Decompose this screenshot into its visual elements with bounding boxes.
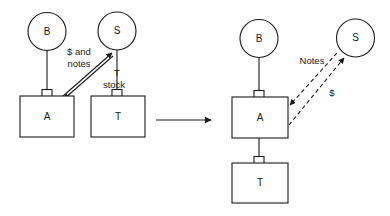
- node-after-b-label: B: [256, 33, 263, 44]
- node-before-s-label: S: [114, 25, 121, 36]
- edge-label-notes: Notes: [300, 55, 325, 66]
- edge-label-cash-and-notes-line1: $ and: [67, 46, 91, 57]
- connector-tab-after-a: [254, 91, 264, 98]
- edge-label-cash: $: [329, 87, 335, 98]
- node-before-t-label: T: [115, 111, 121, 122]
- edge-label-t-stock-line2: stock: [103, 79, 125, 90]
- diagram-svg: B S A T $ and notes T stock: [0, 0, 390, 216]
- panel-before: B S A T $ and notes T stock: [20, 12, 145, 137]
- node-after-a-label: A: [257, 112, 264, 123]
- connector-tab-before-t: [112, 90, 122, 97]
- edge-label-cash-and-notes-line2: notes: [67, 58, 90, 69]
- diagram-canvas: B S A T $ and notes T stock: [0, 0, 390, 216]
- edge-after-cash-a-to-s: [289, 58, 344, 125]
- node-before-a-label: A: [44, 111, 51, 122]
- edge-label-t-stock-line1: T: [114, 67, 120, 78]
- connector-tab-before-a: [42, 90, 52, 97]
- node-after-t-label: T: [257, 177, 263, 188]
- node-after-s-label: S: [352, 32, 359, 43]
- panel-after: B S A T Notes $: [232, 19, 375, 203]
- connector-tab-after-t: [254, 157, 264, 164]
- node-before-b-label: B: [44, 26, 51, 37]
